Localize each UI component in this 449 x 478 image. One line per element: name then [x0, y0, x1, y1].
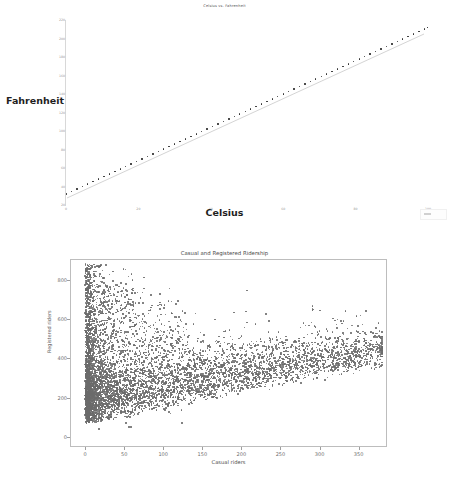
- scatter-point: [89, 377, 91, 379]
- scatter-point: [131, 292, 133, 294]
- scatter-point: [104, 371, 106, 373]
- scatter-point: [274, 357, 276, 359]
- scatter-point: [124, 333, 126, 335]
- scatter-point: [133, 415, 135, 417]
- scatter-point: [149, 408, 151, 410]
- scatter-point: [241, 385, 243, 387]
- scatter-point: [289, 365, 291, 367]
- scatter-point: [238, 384, 240, 386]
- scatter-point: [107, 417, 109, 419]
- scatter-point: [268, 373, 270, 375]
- scatter-point: [172, 334, 174, 336]
- scatter-point: [115, 337, 117, 339]
- scatter-point: [120, 168, 121, 169]
- scatter-point: [106, 390, 108, 392]
- scatter-point: [88, 273, 90, 275]
- scatter-point: [126, 294, 128, 296]
- scatter-point: [90, 278, 92, 280]
- scatter-point: [130, 412, 132, 414]
- scatter-point: [201, 380, 203, 382]
- scatter-point: [293, 381, 295, 383]
- scatter-point: [273, 377, 275, 379]
- scatter-point: [96, 321, 98, 323]
- scatter-point: [223, 375, 225, 377]
- scatter-point: [147, 357, 149, 359]
- scatter-point: [381, 353, 383, 355]
- scatter-point: [237, 393, 239, 395]
- scatter-point: [109, 346, 111, 348]
- scatter-point: [211, 370, 213, 372]
- scatter-point: [163, 370, 165, 372]
- scatter-point: [168, 379, 170, 381]
- scatter-point: [251, 368, 253, 370]
- scatter-point: [211, 390, 213, 392]
- scatter-point: [124, 307, 126, 309]
- scatter-point: [285, 336, 287, 338]
- scatter-point: [381, 364, 383, 366]
- scatter-point: [205, 367, 207, 369]
- scatter-point: [95, 421, 97, 423]
- scatter-point: [140, 297, 142, 299]
- scatter-point: [175, 379, 177, 381]
- scatter-point: [130, 389, 132, 391]
- scatter-point: [100, 371, 102, 373]
- scatter-point: [326, 328, 328, 330]
- x-tick-mark: [359, 447, 360, 450]
- scatter-point: [134, 413, 136, 415]
- scatter-point: [108, 304, 110, 306]
- scatter-point: [323, 354, 325, 356]
- scatter-point: [119, 327, 121, 329]
- scatter-point: [187, 341, 189, 343]
- scatter-point: [240, 387, 242, 389]
- scatter-point: [302, 354, 304, 356]
- scatter-point: [280, 370, 282, 372]
- scatter-point: [300, 371, 302, 373]
- scatter-point: [131, 337, 133, 339]
- scatter-point: [112, 344, 114, 346]
- scatter-point: [150, 399, 152, 401]
- scatter-point: [163, 334, 165, 336]
- scatter-point: [142, 318, 144, 320]
- scatter-point: [160, 352, 162, 354]
- scatter-point: [139, 340, 141, 342]
- scatter-point: [340, 352, 342, 354]
- y-tick-mark: [67, 319, 70, 320]
- scatter-point: [268, 331, 270, 333]
- scatter-point: [108, 407, 110, 409]
- scatter-point: [163, 349, 165, 351]
- scatter-point: [247, 344, 249, 346]
- scatter-point: [274, 360, 276, 362]
- scatter-point: [155, 400, 157, 402]
- scatter-point: [329, 342, 331, 344]
- scatter-point: [203, 355, 205, 357]
- scatter-point: [281, 341, 283, 343]
- scatter-point: [145, 355, 147, 357]
- scatter-point: [117, 331, 119, 333]
- y-tick-label: 200: [43, 37, 65, 41]
- scatter-point: [212, 385, 214, 387]
- scatter-point: [243, 360, 245, 362]
- scatter-point: [346, 371, 348, 373]
- y-tick-label: 180: [43, 55, 65, 59]
- scatter-point: [190, 385, 192, 387]
- y-tick-mark: [67, 358, 70, 359]
- scatter-point: [180, 390, 182, 392]
- scatter-point: [191, 383, 193, 385]
- scatter-point: [372, 349, 374, 351]
- scatter-point: [164, 409, 166, 411]
- scatter-point: [121, 296, 123, 298]
- x-tick-label: 250: [270, 451, 290, 457]
- scatter-point: [115, 312, 117, 314]
- scatter-point: [98, 330, 100, 332]
- scatter-point: [148, 380, 150, 382]
- scatter-point: [245, 311, 247, 313]
- scatter-point: [255, 345, 257, 347]
- scatter-point: [213, 377, 215, 379]
- scatter-point: [272, 384, 274, 386]
- scatter-point: [207, 363, 209, 365]
- scatter-point: [280, 338, 282, 340]
- scatter-point: [172, 382, 174, 384]
- scatter-point: [102, 397, 104, 399]
- scatter-point: [272, 350, 274, 352]
- scatter-point: [127, 290, 129, 292]
